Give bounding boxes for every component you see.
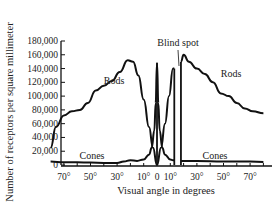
- x-tick-label: 10°: [137, 172, 151, 182]
- x-tick-label: 0: [155, 172, 160, 182]
- y-tick-label: 180,000: [27, 36, 58, 46]
- x-axis-title: Visual angle in degrees: [117, 185, 215, 196]
- line-cones: [181, 161, 264, 162]
- x-axis: 70°50°30°10°010°30°50°70°: [57, 163, 272, 182]
- line-rods: [181, 55, 264, 114]
- y-axis-title: Number of receptors per square millimete…: [4, 22, 15, 202]
- x-tick-label: 50°: [217, 172, 231, 182]
- y-axis: 020,00040,00060,00080,000100,000120,0001…: [27, 36, 65, 170]
- y-tick-label: 20,000: [32, 146, 58, 156]
- y-tick-label: 100,000: [27, 91, 58, 101]
- annotation-rods: Rods: [104, 75, 125, 86]
- x-tick-label: 70°: [243, 172, 257, 182]
- receptor-density-chart: 020,00040,00060,00080,000100,000120,0001…: [0, 0, 274, 205]
- x-tick-label: 10°: [164, 172, 178, 182]
- y-tick-label: 140,000: [27, 64, 58, 74]
- y-tick-label: 160,000: [27, 50, 58, 60]
- annotation-blind-spot: Blind spot: [157, 37, 199, 48]
- annotation-cones: Cones: [80, 150, 105, 161]
- annotation-rods: Rods: [221, 68, 242, 79]
- annotation-cones: Cones: [203, 150, 228, 161]
- x-tick-label: 30°: [110, 172, 124, 182]
- y-tick-label: 80,000: [32, 105, 58, 115]
- x-tick-label: 30°: [190, 172, 204, 182]
- y-tick-label: 60,000: [32, 119, 58, 129]
- x-tick-label: 50°: [84, 172, 98, 182]
- blind-spot-pointer: [178, 50, 179, 66]
- x-tick-label: 70°: [57, 172, 71, 182]
- y-tick-label: 120,000: [27, 77, 58, 87]
